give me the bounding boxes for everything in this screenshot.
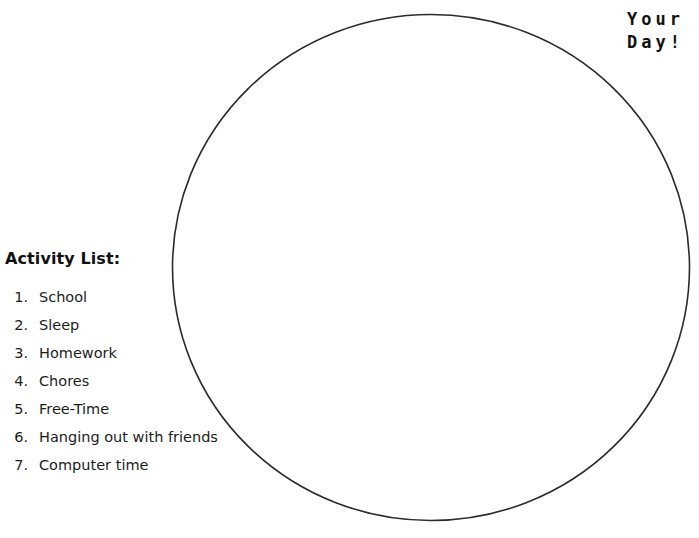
- list-item: 7. Computer time: [5, 451, 265, 479]
- list-item: 2. Sleep: [5, 311, 265, 339]
- page-title: Your Day!: [627, 8, 686, 54]
- list-item-number: 5.: [5, 395, 28, 423]
- list-item: 6. Hanging out with friends: [5, 423, 265, 451]
- activity-list: 1. School 2. Sleep 3. Homework 4. Chores…: [5, 283, 265, 479]
- activity-list-heading: Activity List:: [5, 249, 265, 269]
- worksheet-page: Your Day! Activity List: 1. School 2. Sl…: [0, 0, 699, 538]
- list-item-label: Computer time: [28, 451, 148, 479]
- list-item-number: 7.: [5, 451, 28, 479]
- list-item-number: 1.: [5, 283, 28, 311]
- list-item-number: 4.: [5, 367, 28, 395]
- activity-list-block: Activity List: 1. School 2. Sleep 3. Hom…: [5, 249, 265, 479]
- list-item: 5. Free-Time: [5, 395, 265, 423]
- list-item-number: 6.: [5, 423, 28, 451]
- list-item-label: School: [28, 283, 87, 311]
- list-item-label: Homework: [28, 339, 117, 367]
- list-item-label: Hanging out with friends: [28, 423, 218, 451]
- page-title-line-1: Your: [627, 8, 686, 31]
- list-item: 3. Homework: [5, 339, 265, 367]
- list-item-label: Free-Time: [28, 395, 109, 423]
- list-item-number: 3.: [5, 339, 28, 367]
- list-item-number: 2.: [5, 311, 28, 339]
- list-item-label: Chores: [28, 367, 89, 395]
- list-item: 1. School: [5, 283, 265, 311]
- list-item-label: Sleep: [28, 311, 79, 339]
- list-item: 4. Chores: [5, 367, 265, 395]
- page-title-line-2: Day!: [627, 31, 686, 54]
